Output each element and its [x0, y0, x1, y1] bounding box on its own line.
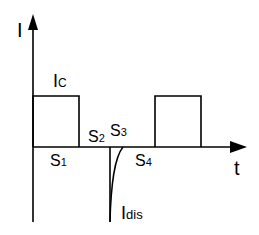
s1-label: S1 — [50, 152, 67, 169]
y-axis-arrow-icon — [28, 14, 38, 30]
s4-label: S4 — [135, 152, 152, 169]
discharge-current-label: Idis — [121, 203, 143, 223]
x-axis-label: t — [234, 157, 240, 179]
waveform-diagram: I t IC S1 S2 S3 S4 Idis — [0, 0, 259, 235]
charge-pulse-1 — [33, 96, 79, 147]
y-axis-label: I — [17, 19, 23, 41]
charge-pulse-2 — [155, 96, 201, 147]
s2-label: S2 — [88, 128, 105, 145]
s3-label: S3 — [110, 122, 127, 139]
charge-current-label: IC — [53, 71, 67, 91]
x-axis-arrow-icon — [230, 141, 247, 153]
